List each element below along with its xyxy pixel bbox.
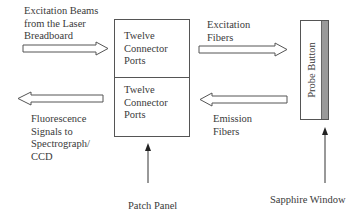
label-excitation-beams: Excitation Beams from the Laser Breadboa… [24,5,98,43]
probe-button: Probe Button [300,20,329,120]
arrow-emission-fibers [200,93,287,106]
label-excitation-fibers: Excitation Fibers [207,19,250,44]
probe-button-label: Probe Button [305,30,319,110]
label-sapphire-window: Sapphire Window [270,194,346,207]
label-patch-panel: Patch Panel [128,200,177,213]
patch-panel-bottom-text: Twelve Connector Ports [124,84,168,122]
patch-panel-pointer-arrowhead-icon [145,143,151,151]
sapphire-window-strip [321,21,328,119]
patch-panel-bottom-section: Twelve Connector Ports [114,77,190,137]
patch-panel-top-text: Twelve Connector Ports [124,30,168,68]
arrow-excitation-fibers [199,43,287,56]
patch-panel-top-section: Twelve Connector Ports [114,19,190,78]
sapphire-window-pointer-arrowhead-icon [322,127,328,135]
arrow-excitation-beams [23,42,108,55]
label-fluorescence-signals: Fluorescence Signals to Spectrograph/ CC… [31,113,90,163]
label-emission-fibers: Emission Fibers [213,113,252,138]
arrow-fluorescence-signals [18,92,103,105]
